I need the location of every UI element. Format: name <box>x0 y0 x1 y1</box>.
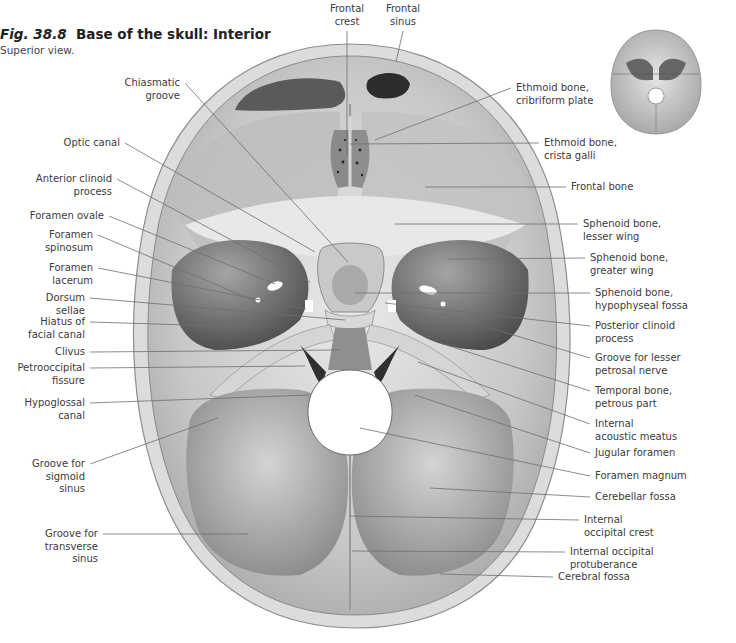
label-groove-for-sigmoid-sinus: Groove forsigmoidsinus <box>32 458 85 496</box>
label-petrooccipital-fissure: Petrooccipitalfissure <box>17 362 85 387</box>
label-line: acoustic meatus <box>595 431 677 444</box>
label-line: transverse <box>45 541 98 554</box>
label-line: Internal occipital <box>570 546 654 559</box>
label-line: Dorsum <box>46 292 85 305</box>
label-hypoglossal-canal: Hypoglossalcanal <box>25 397 85 422</box>
label-line: petrosal nerve <box>595 365 681 378</box>
label-internal-acoustic-meatus: Internalacoustic meatus <box>595 418 677 443</box>
label-line: lesser wing <box>583 231 661 244</box>
label-line: fissure <box>17 375 85 388</box>
foramen-magnum-opening <box>308 370 392 455</box>
label-line: Sphenoid bone, <box>595 287 688 300</box>
label-line: lacerum <box>49 275 93 288</box>
label-line: sinus <box>45 553 98 566</box>
label-line: Ethmoid bone, <box>516 82 593 95</box>
label-ethmoid-crista-galli: Ethmoid bone,crista galli <box>544 137 617 162</box>
label-line: Anterior clinoid <box>36 173 112 186</box>
label-line: process <box>36 186 112 199</box>
clivus-shape <box>328 328 372 370</box>
label-line: Temporal bone, <box>595 385 672 398</box>
label-line: Optic canal <box>64 137 120 150</box>
label-line: Cerebral fossa <box>558 571 630 584</box>
label-dorsum-sellae: Dorsumsellae <box>46 292 85 317</box>
label-line: canal <box>25 410 85 423</box>
label-foramen-magnum: Foramen magnum <box>595 470 687 483</box>
label-line: Clivus <box>55 346 85 359</box>
label-cerebellar-fossa: Cerebellar fossa <box>595 491 676 504</box>
label-hiatus-of-facial-canal: Hiatus offacial canal <box>28 316 85 341</box>
label-line: crista galli <box>544 150 617 163</box>
label-line: Internal <box>584 514 654 527</box>
label-line: petrous part <box>595 398 672 411</box>
label-line: sigmoid <box>32 471 85 484</box>
label-line: Hypoglossal <box>25 397 85 410</box>
label-line: Groove for <box>32 458 85 471</box>
label-frontal-bone: Frontal bone <box>571 181 633 194</box>
label-line: Jugular foramen <box>595 447 675 460</box>
label-jugular-foramen: Jugular foramen <box>595 447 675 460</box>
label-line: Groove for lesser <box>595 352 681 365</box>
label-cerebral-fossa: Cerebral fossa <box>558 571 630 584</box>
label-line: Foramen ovale <box>30 210 104 223</box>
label-frontal-sinus: Frontalsinus <box>378 3 428 28</box>
label-line: Frontal bone <box>571 181 633 194</box>
label-line: Groove for <box>45 528 98 541</box>
label-sphenoid-lesser-wing: Sphenoid bone,lesser wing <box>583 218 661 243</box>
label-foramen-spinosum: Foramenspinosum <box>45 229 93 254</box>
label-frontal-crest: Frontalcrest <box>322 3 372 28</box>
label-line: Frontal <box>378 3 428 16</box>
label-line: facial canal <box>28 329 85 342</box>
label-line: Hiatus of <box>28 316 85 329</box>
label-line: Posterior clinoid <box>595 320 675 333</box>
label-foramen-lacerum: Foramenlacerum <box>49 262 93 287</box>
label-internal-occipital-protuberance: Internal occipitalprotuberance <box>570 546 654 571</box>
label-ethmoid-cribriform-plate: Ethmoid bone,cribriform plate <box>516 82 593 107</box>
label-line: cribriform plate <box>516 95 593 108</box>
label-foramen-ovale: Foramen ovale <box>30 210 104 223</box>
label-line: Ethmoid bone, <box>544 137 617 150</box>
label-line: Foramen <box>45 229 93 242</box>
label-groove-for-transverse-sinus: Groove fortransversesinus <box>45 528 98 566</box>
label-line: occipital crest <box>584 527 654 540</box>
label-posterior-clinoid-process: Posterior clinoidprocess <box>595 320 675 345</box>
label-line: Chiasmatic <box>124 77 180 90</box>
label-line: sinus <box>32 483 85 496</box>
label-temporal-petrous-part: Temporal bone,petrous part <box>595 385 672 410</box>
label-optic-canal: Optic canal <box>64 137 120 150</box>
label-line: Foramen <box>49 262 93 275</box>
label-line: greater wing <box>590 265 668 278</box>
label-line: sinus <box>378 16 428 29</box>
label-anterior-clinoid-process: Anterior clinoidprocess <box>36 173 112 198</box>
label-line: hypophyseal fossa <box>595 300 688 313</box>
label-groove-for-lesser-petrosal-nerve: Groove for lesserpetrosal nerve <box>595 352 681 377</box>
label-line: Sphenoid bone, <box>583 218 661 231</box>
label-line: Sphenoid bone, <box>590 252 668 265</box>
orientation-thumbnail <box>611 30 701 134</box>
label-clivus: Clivus <box>55 346 85 359</box>
label-line: protuberance <box>570 559 654 572</box>
label-line: Foramen magnum <box>595 470 687 483</box>
label-line: Frontal <box>322 3 372 16</box>
label-line: Petrooccipital <box>17 362 85 375</box>
label-line: process <box>595 333 675 346</box>
label-line: spinosum <box>45 242 93 255</box>
label-line: Internal <box>595 418 677 431</box>
label-sphenoid-greater-wing: Sphenoid bone,greater wing <box>590 252 668 277</box>
label-line: crest <box>322 16 372 29</box>
label-chiasmatic-groove: Chiasmaticgroove <box>124 77 180 102</box>
label-internal-occipital-crest: Internaloccipital crest <box>584 514 654 539</box>
label-sphenoid-hypophyseal-fossa: Sphenoid bone,hypophyseal fossa <box>595 287 688 312</box>
label-line: groove <box>124 90 180 103</box>
label-line: Cerebellar fossa <box>595 491 676 504</box>
